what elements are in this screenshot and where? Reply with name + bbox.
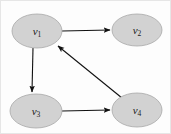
directed-graph-figure: v1 v2 v3 v4 bbox=[0, 0, 171, 134]
node-v2-subscript: 2 bbox=[138, 29, 142, 38]
node-v1-subscript: 1 bbox=[38, 30, 42, 39]
node-v4-subscript: 4 bbox=[138, 109, 142, 118]
node-v4[interactable]: v4 bbox=[112, 93, 162, 127]
edge-v1-to-v3 bbox=[32, 48, 33, 92]
node-v2[interactable]: v2 bbox=[112, 14, 162, 46]
edge-v1-to-v2 bbox=[62, 30, 110, 31]
node-v3-subscript: 3 bbox=[37, 110, 41, 119]
edge-v3-to-v4 bbox=[62, 110, 110, 111]
graph-canvas: v1 v2 v3 v4 bbox=[0, 0, 171, 134]
edge-v4-to-v1 bbox=[58, 46, 122, 98]
node-v3[interactable]: v3 bbox=[10, 94, 62, 128]
node-v1[interactable]: v1 bbox=[12, 14, 62, 48]
